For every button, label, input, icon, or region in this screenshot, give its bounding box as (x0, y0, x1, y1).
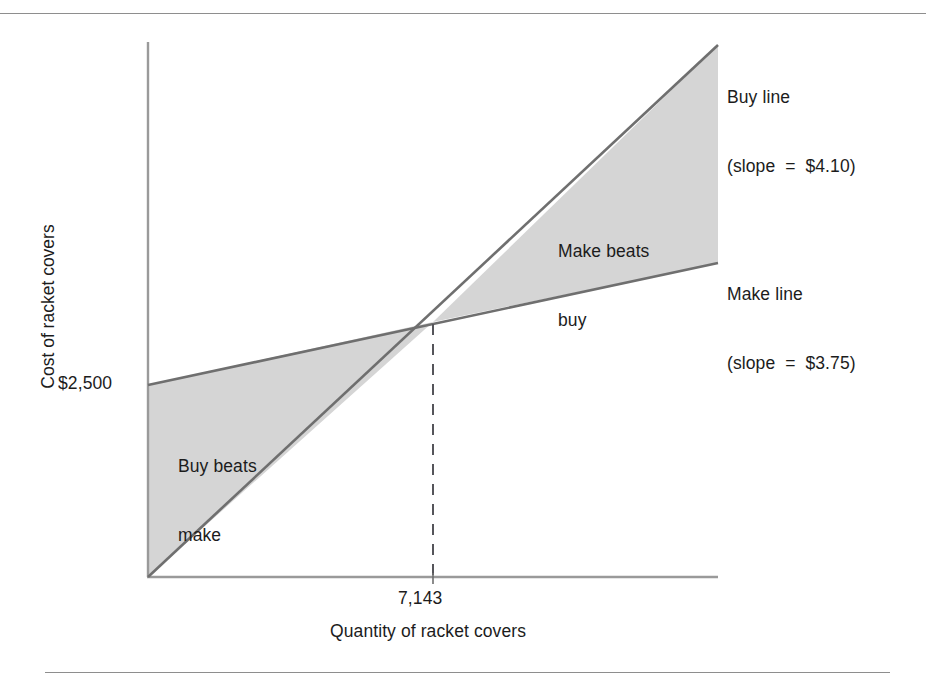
make-line-annotation-name: Make line (727, 283, 856, 306)
x-tick-label-7143: 7,143 (398, 587, 442, 610)
region-make-beats-buy-annotation: Make beats buy (558, 194, 649, 378)
y-axis-label: Cost of racket covers (38, 197, 59, 417)
region-buy-beats-make-line2: make (178, 524, 257, 547)
buy-line-annotation: Buy line (slope = $4.10) (727, 40, 856, 224)
make-line-annotation-slope: (slope = $3.75) (727, 352, 856, 375)
buy-line-annotation-slope: (slope = $4.10) (727, 155, 856, 178)
x-axis-label: Quantity of racket covers (330, 620, 526, 643)
buy-line-annotation-name: Buy line (727, 86, 856, 109)
region-make-beats-buy-line2: buy (558, 309, 649, 332)
region-buy-beats-make-annotation: Buy beats make (178, 409, 257, 593)
figure-container: Cost of racket covers Quantity of racket… (0, 0, 926, 695)
region-buy-beats-make-line1: Buy beats (178, 455, 257, 478)
region-make-beats-buy-line1: Make beats (558, 240, 649, 263)
make-line-annotation: Make line (slope = $3.75) (727, 237, 856, 421)
y-tick-label-2500: $2,500 (58, 372, 112, 395)
